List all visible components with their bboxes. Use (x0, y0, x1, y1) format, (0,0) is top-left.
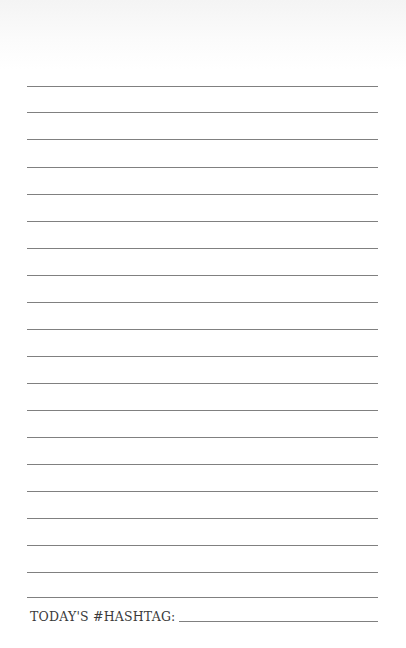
ruled-line[interactable] (27, 356, 378, 357)
ruled-line[interactable] (27, 194, 378, 195)
ruled-line[interactable] (27, 112, 378, 113)
ruled-line[interactable] (27, 329, 378, 330)
ruled-line[interactable] (27, 464, 378, 465)
hashtag-label: TODAY'S #HASHTAG: (30, 610, 176, 624)
ruled-line[interactable] (27, 275, 378, 276)
ruled-line[interactable] (27, 518, 378, 519)
ruled-line[interactable] (27, 86, 378, 87)
ruled-line[interactable] (27, 491, 378, 492)
hashtag-write-line[interactable] (179, 621, 379, 622)
ruled-line[interactable] (27, 167, 378, 168)
ruled-line[interactable] (27, 302, 378, 303)
ruled-line[interactable] (27, 383, 378, 384)
ruled-line[interactable] (27, 437, 378, 438)
hashtag-footer: TODAY'S #HASHTAG: (30, 606, 378, 624)
journal-page: TODAY'S #HASHTAG: (0, 0, 406, 648)
ruled-line[interactable] (27, 597, 378, 598)
ruled-line[interactable] (27, 221, 378, 222)
ruled-line[interactable] (27, 139, 378, 140)
ruled-line[interactable] (27, 545, 378, 546)
ruled-line[interactable] (27, 248, 378, 249)
ruled-line[interactable] (27, 410, 378, 411)
ruled-line[interactable] (27, 572, 378, 573)
